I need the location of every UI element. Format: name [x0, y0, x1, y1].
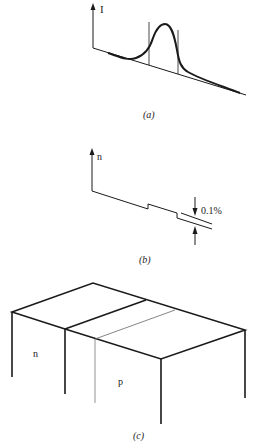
region-p-label: p [118, 376, 123, 387]
arrow-head-a [91, 3, 96, 10]
block-top-face [12, 283, 245, 359]
panel-c [12, 283, 245, 424]
panel-a: I (a) [91, 3, 247, 121]
caption-c: (c) [133, 430, 145, 442]
arrow-down-icon [193, 208, 198, 216]
arrow-up-icon [193, 226, 198, 234]
caption-b: (b) [139, 254, 151, 266]
figure: I (a) n 0.1% (b) n p (c) [0, 0, 262, 442]
axis-label-n: n [97, 151, 102, 162]
axis-label-i: I [100, 3, 104, 15]
caption-a: (a) [143, 109, 155, 121]
step-annotation: 0.1% [201, 205, 222, 216]
panel-b: n 0.1% (b) [90, 148, 222, 266]
region-n-label: n [33, 348, 38, 359]
intensity-curve [108, 24, 240, 93]
arrow-head-b [90, 148, 95, 155]
